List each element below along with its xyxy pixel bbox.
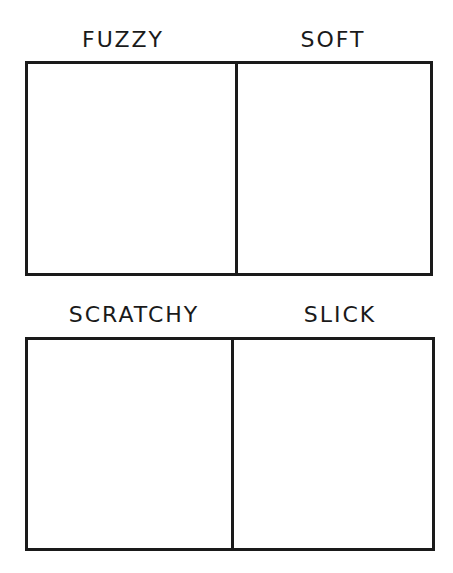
- panel-label-scratchy: SCRATCHY: [69, 304, 200, 326]
- drawing-area-soft[interactable]: [238, 64, 430, 273]
- drawing-area-slick[interactable]: [234, 340, 432, 548]
- panel-label-soft: SOFT: [301, 29, 366, 51]
- panel-label-fuzzy: FUZZY: [82, 29, 164, 51]
- drawing-area-fuzzy[interactable]: [28, 64, 235, 273]
- top-panel-frame: [25, 61, 433, 276]
- bottom-panel-frame: [25, 337, 435, 551]
- drawing-area-scratchy[interactable]: [28, 340, 231, 548]
- panel-label-slick: SLICK: [304, 304, 377, 326]
